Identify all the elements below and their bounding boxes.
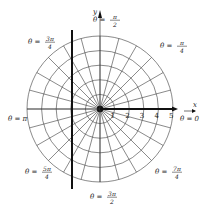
radius-tick-labels: 12345 — [111, 112, 174, 120]
ray-105deg — [81, 38, 100, 109]
angle-label-theta-0: θ = 0 — [180, 115, 200, 123]
svg-text:4: 4 — [47, 43, 52, 50]
radius-tick-5: 5 — [169, 112, 173, 120]
radius-tick-3: 3 — [140, 112, 144, 120]
svg-text:θ =: θ = — [160, 42, 172, 50]
svg-text:θ = 0: θ = 0 — [180, 115, 200, 123]
angle-label-theta-pi-2: θ = π2 — [93, 13, 120, 28]
svg-text:4: 4 — [174, 173, 179, 180]
ray-195deg — [29, 109, 100, 128]
svg-text:θ =: θ = — [28, 38, 40, 46]
ray-135deg — [48, 57, 100, 109]
angle-label-theta-pi: θ = π — [8, 115, 28, 123]
ray-225deg — [48, 109, 100, 161]
radius-tick-2: 2 — [125, 112, 129, 120]
y-axis-label-text: y — [92, 8, 98, 16]
angle-label-theta-3pi-4: θ = 3π4 — [28, 35, 55, 50]
svg-text:θ = π: θ = π — [8, 115, 28, 123]
svg-text:3π: 3π — [108, 190, 117, 197]
ray-210deg — [37, 109, 100, 146]
ray-30deg — [100, 73, 163, 110]
svg-text:2: 2 — [112, 21, 117, 28]
angle-label-theta-pi-4: θ = π4 — [160, 39, 187, 54]
angle-label-theta-3pi-2: θ = 3π2 — [90, 190, 117, 205]
svg-text:3π: 3π — [46, 35, 55, 42]
ray-arrow-icon — [172, 107, 178, 112]
svg-text:π: π — [112, 13, 118, 20]
ray-165deg — [29, 90, 100, 109]
svg-text:θ =: θ = — [90, 193, 102, 201]
ray-240deg — [64, 109, 101, 172]
polar-grid-figure: yx 12345 θ = 0θ = π4θ = π2θ = 3π4θ = πθ … — [0, 0, 205, 212]
ray-255deg — [81, 109, 100, 180]
heavy-lines — [72, 30, 178, 189]
svg-text:7π: 7π — [173, 165, 182, 172]
ray-285deg — [100, 109, 119, 180]
svg-text:π: π — [179, 39, 185, 46]
ray-75deg — [100, 38, 119, 109]
svg-text:5π: 5π — [43, 165, 52, 172]
svg-text:θ =: θ = — [25, 168, 37, 176]
svg-text:2: 2 — [109, 198, 114, 205]
ray-150deg — [37, 73, 100, 110]
polar-grid-svg: yx 12345 θ = 0θ = π4θ = π2θ = 3π4θ = πθ … — [0, 0, 205, 212]
x-axis-label-text: x — [193, 101, 197, 109]
radius-tick-4: 4 — [154, 112, 159, 120]
svg-text:θ =: θ = — [93, 16, 105, 24]
angle-label-theta-7pi-4: θ = 7π4 — [155, 165, 182, 180]
svg-text:θ =: θ = — [155, 168, 167, 176]
ray-300deg — [100, 109, 137, 172]
radius-tick-1: 1 — [111, 112, 115, 120]
x-axis-arrow-icon — [192, 109, 196, 113]
ray-120deg — [64, 46, 101, 109]
ray-45deg — [100, 57, 152, 109]
ray-15deg — [100, 90, 171, 109]
svg-text:4: 4 — [44, 173, 49, 180]
ray-60deg — [100, 46, 137, 109]
svg-text:4: 4 — [179, 47, 184, 54]
angle-label-theta-5pi-4: θ = 5π4 — [25, 165, 52, 180]
